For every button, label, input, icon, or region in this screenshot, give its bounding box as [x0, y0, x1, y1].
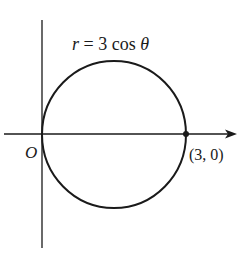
point-3-0-marker — [183, 131, 189, 137]
equation-label: r = 3 cos θ — [72, 34, 149, 54]
point-label: (3, 0) — [189, 146, 224, 164]
polar-plot: r = 3 cos θ O (3, 0) — [0, 0, 249, 258]
origin-label: O — [25, 143, 37, 162]
